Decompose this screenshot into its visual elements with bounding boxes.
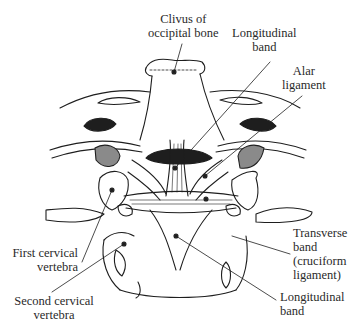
label-transverse-band-line4: ligament) [293, 268, 347, 282]
label-transverse-band-line3: (cruciform [293, 254, 347, 268]
label-transverse-band-line2: band [293, 240, 347, 254]
label-longitudinal-band-bottom: Longitudinal band [280, 290, 345, 318]
label-transverse-band-line1: Transverse [293, 226, 347, 240]
label-alar-ligament-line2: ligament [282, 78, 326, 92]
label-longitudinal-band-bottom-line1: Longitudinal [280, 290, 345, 304]
label-transverse-band: Transverse band (cruciform ligament) [293, 226, 347, 282]
label-clivus-line2: occipital bone [148, 26, 218, 40]
label-first-cervical-vertebra: First cervical vertebra [12, 246, 78, 274]
label-second-cervical-line1: Second cervical [12, 294, 96, 308]
anatomy-diagram: Clivus of occipital bone Longitudinal ba… [0, 0, 359, 333]
label-first-cervical-line1: First cervical [12, 246, 78, 260]
label-first-cervical-line2: vertebra [12, 260, 78, 274]
label-clivus-line1: Clivus of [148, 12, 218, 26]
label-clivus: Clivus of occipital bone [148, 12, 218, 40]
label-second-cervical-vertebra: Second cervical vertebra [12, 294, 96, 322]
ligament-illustration [0, 0, 359, 333]
label-longitudinal-band-bottom-line2: band [280, 304, 345, 318]
label-longitudinal-band-top-line1: Longitudinal [232, 26, 297, 40]
label-alar-ligament-line1: Alar [282, 64, 326, 78]
label-longitudinal-band-top: Longitudinal band [232, 26, 297, 54]
label-alar-ligament: Alar ligament [282, 64, 326, 92]
label-second-cervical-line2: vertebra [12, 308, 96, 322]
label-longitudinal-band-top-line2: band [232, 40, 297, 54]
